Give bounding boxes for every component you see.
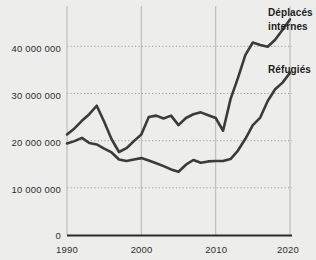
y-tick-20m: 20 000 000 [11,137,61,148]
x-tick-1990: 1990 [56,244,78,255]
series-label-refugies: Réfugiés [268,64,311,75]
y-tick-0: 0 [56,230,61,241]
y-tick-30m: 30 000 000 [11,90,61,101]
x-tick-2020: 2020 [277,244,299,255]
y-tick-10m: 10 000 000 [11,184,61,195]
series-label-deplaces-internes-line2: internes [268,21,308,32]
x-tick-2000: 2000 [131,244,153,255]
x-tick-2010: 2010 [205,244,227,255]
chart-background [0,0,316,260]
chart-container: 40 000 000 30 000 000 20 000 000 10 000 … [0,0,316,260]
y-tick-40m: 40 000 000 [11,43,61,54]
series-label-deplaces-internes-line1: Déplacés [268,7,313,18]
line-chart: 40 000 000 30 000 000 20 000 000 10 000 … [0,0,316,260]
